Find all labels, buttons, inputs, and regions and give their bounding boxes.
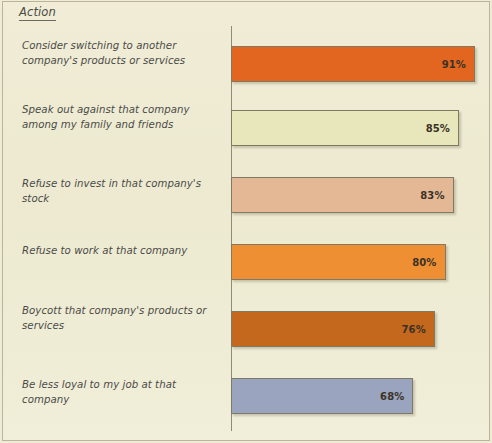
bar-row: Consider switching to another company's … (0, 26, 492, 90)
bar-rect[interactable]: 85% (231, 110, 459, 146)
bar-rect[interactable]: 91% (231, 46, 475, 82)
bar-rect[interactable]: 76% (231, 311, 435, 347)
bar-value-label: 76% (402, 324, 426, 335)
bar-rect[interactable]: 80% (231, 244, 446, 280)
chart-container: Action Consider switching to another com… (0, 0, 492, 443)
bar-label: Consider switching to another company's … (22, 39, 218, 68)
bar-rect[interactable]: 68% (231, 378, 413, 414)
column-header-action: Action (19, 6, 56, 21)
bar-track: 85% (231, 110, 459, 146)
bar-value-label: 83% (420, 190, 444, 201)
bar-label: Be less loyal to my job at that company (22, 378, 218, 407)
bar-track: 80% (231, 244, 446, 280)
bar-row: Refuse to work at that company 80% (0, 224, 492, 288)
bar-row: Speak out against that company among my … (0, 90, 492, 154)
plot-area: Consider switching to another company's … (0, 26, 492, 438)
bar-label: Refuse to work at that company (22, 244, 218, 259)
bar-value-label: 80% (412, 257, 436, 268)
bar-value-label: 91% (442, 59, 466, 70)
bar-track: 91% (231, 46, 475, 82)
bar-label: Speak out against that company among my … (22, 103, 218, 132)
bar-track: 83% (231, 177, 454, 213)
bar-track: 76% (231, 311, 435, 347)
bar-label: Refuse to invest in that company's stock (22, 177, 218, 206)
bar-row: Be less loyal to my job at that company … (0, 358, 492, 422)
bar-value-label: 85% (426, 123, 450, 134)
bar-value-label: 68% (380, 391, 404, 402)
bar-row: Refuse to invest in that company's stock… (0, 157, 492, 221)
bar-rect[interactable]: 83% (231, 177, 454, 213)
bar-label: Boycott that company's products or servi… (22, 304, 218, 333)
bar-track: 68% (231, 378, 413, 414)
bar-row: Boycott that company's products or servi… (0, 291, 492, 355)
